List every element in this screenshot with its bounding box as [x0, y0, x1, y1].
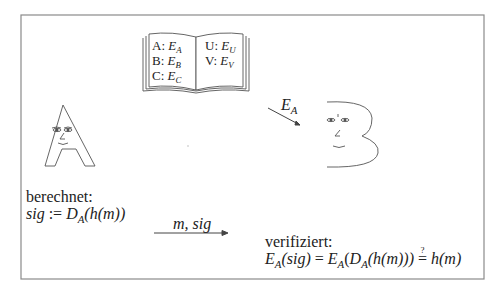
letter-a-outline [45, 105, 95, 166]
receiver-formula: EA(sig) = EA(DA(h(m))) ?= h(m) [265, 250, 461, 273]
bob-face-icon [327, 102, 378, 167]
book-entry-v: V: EV [205, 53, 234, 73]
questioned-equals: ?= [418, 250, 427, 268]
mouth [58, 143, 68, 145]
sender-step-label: berechnet: [26, 188, 93, 206]
receiver-step-label: verifiziert: [265, 233, 333, 251]
key-arrow-label: EA [281, 96, 297, 119]
alice-face-icon [45, 105, 95, 166]
diagram-frame [21, 15, 484, 279]
nose [60, 133, 65, 139]
sender-formula: sig := DA(h(m)) [26, 205, 125, 228]
book-entry-c: C: EC [152, 68, 181, 88]
message-arrow-label: m, sig [173, 215, 211, 233]
letter-b-outline [327, 102, 378, 167]
